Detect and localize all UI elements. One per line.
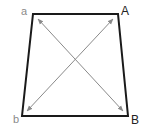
vertex-label-A: A — [121, 4, 129, 18]
trapezoid-outline — [22, 14, 128, 116]
vertex-label-B: B — [131, 113, 139, 127]
vertex-label-a: a — [21, 5, 28, 17]
trapezoid-diagram: a A b B — [0, 0, 144, 134]
vertex-label-b: b — [13, 113, 19, 125]
diagonal-arrow-b-to-A — [27, 19, 113, 111]
diagonal-arrow-a-to-B — [38, 19, 123, 111]
